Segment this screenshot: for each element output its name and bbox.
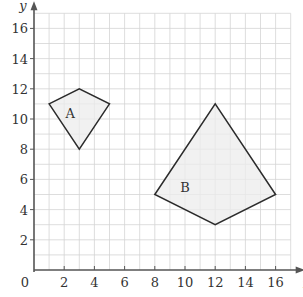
y-tick-label: 2 bbox=[20, 233, 28, 248]
x-tick-label: 10 bbox=[177, 275, 194, 290]
y-tick-label: 14 bbox=[11, 52, 28, 67]
y-tick-label: 4 bbox=[20, 203, 28, 218]
coordinate-grid: AB 2468101214162468101214160xy bbox=[0, 0, 303, 297]
x-tick-label: 6 bbox=[120, 275, 128, 290]
x-tick-label: 4 bbox=[90, 275, 98, 290]
x-tick-label: 14 bbox=[237, 275, 254, 290]
y-tick-label: 10 bbox=[11, 112, 28, 127]
y-tick-label: 12 bbox=[11, 82, 28, 97]
y-axis-label: y bbox=[18, 0, 27, 13]
x-axis-arrow-icon bbox=[296, 267, 303, 274]
y-tick-label: 6 bbox=[20, 172, 28, 187]
y-tick-label: 16 bbox=[11, 21, 28, 36]
x-tick-label: 8 bbox=[151, 275, 159, 290]
x-tick-label: 12 bbox=[207, 275, 224, 290]
grid-lines bbox=[34, 13, 291, 270]
shapes: AB bbox=[49, 89, 276, 225]
y-axis-arrow-icon bbox=[31, 1, 38, 10]
shape-label-a: A bbox=[65, 106, 76, 121]
shape-label-b: B bbox=[180, 180, 190, 195]
x-tick-label: 16 bbox=[267, 275, 284, 290]
x-tick-label: 2 bbox=[60, 275, 68, 290]
origin-label: 0 bbox=[21, 275, 29, 290]
y-tick-label: 8 bbox=[20, 142, 28, 157]
